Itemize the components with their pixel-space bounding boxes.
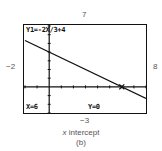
calculator-screen: Y1=-2X/3+4 X=6 Y=0: [23, 24, 147, 114]
equation-label: Y1=-2X/3+4: [26, 27, 65, 34]
caption-title: x intercept: [0, 128, 162, 137]
ymin-label: −3: [80, 117, 89, 125]
caption-label: (b): [0, 138, 162, 147]
function-line: [25, 41, 146, 99]
y-readout: Y=0: [88, 104, 100, 111]
x-readout: X=6: [26, 104, 38, 111]
ymax-label: 7: [82, 11, 86, 19]
graph-plot: [24, 25, 147, 114]
xmax-label: 8: [153, 63, 157, 71]
xmin-label: −2: [6, 63, 15, 71]
